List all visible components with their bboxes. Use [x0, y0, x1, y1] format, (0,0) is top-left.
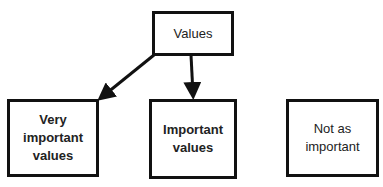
node-not-as-important: Not as important	[286, 99, 379, 177]
node-important-values: Important values	[149, 99, 237, 179]
node-values-label: Values	[174, 25, 213, 43]
arrow-values-to-important	[191, 55, 193, 94]
node-very-important-label: Very important values	[18, 111, 88, 165]
node-values: Values	[152, 11, 234, 56]
node-very-important-values: Very important values	[7, 99, 99, 177]
node-not-important-label: Not as important	[300, 120, 365, 156]
node-important-label: Important values	[158, 121, 228, 157]
arrow-values-to-very-important	[102, 55, 154, 97]
